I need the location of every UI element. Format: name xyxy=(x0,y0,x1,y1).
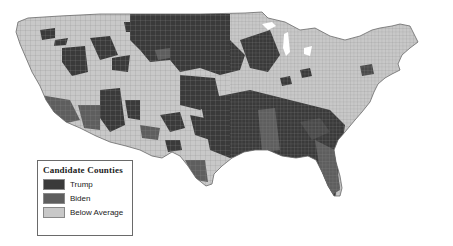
below-average-swatch xyxy=(43,207,65,218)
map-legend: Candidate Counties Trump Biden Below Ave… xyxy=(37,160,133,236)
legend-title: Candidate Counties xyxy=(43,165,127,175)
legend-item-trump: Trump xyxy=(43,178,127,191)
legend-label: Below Average xyxy=(70,208,123,217)
legend-label: Trump xyxy=(70,180,93,189)
biden-swatch xyxy=(43,193,65,204)
legend-item-biden: Biden xyxy=(43,192,127,205)
legend-label: Biden xyxy=(70,194,90,203)
trump-swatch xyxy=(43,179,65,190)
legend-item-below-average: Below Average xyxy=(43,206,127,219)
